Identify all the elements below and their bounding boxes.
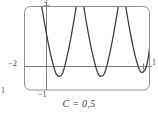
figure-caption: C = 0,5 xyxy=(0,99,158,109)
left-margin-label-one: 1 xyxy=(1,87,5,95)
x-axis-tick-label-neg-one: −1 xyxy=(38,91,47,99)
figure-container: −2 −1 1 1 2 C = 0,5 xyxy=(0,0,158,117)
curve-branch-2 xyxy=(84,5,119,76)
y-axis-tick-label-neg-two: −2 xyxy=(8,59,17,68)
right-margin-label-one: 1 xyxy=(152,59,156,67)
y-axis-top-label-two: 2 xyxy=(44,0,48,5)
curve-group xyxy=(42,5,152,76)
curve-branch-3 xyxy=(126,5,152,72)
